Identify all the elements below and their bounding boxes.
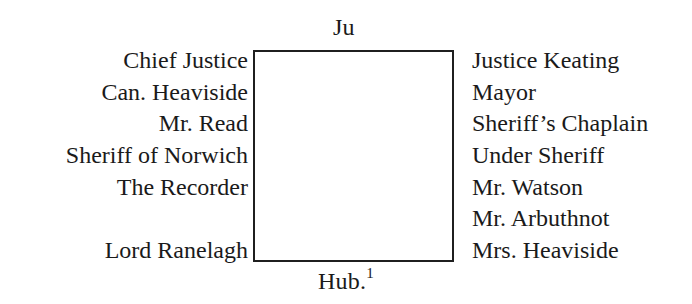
guest-left-7: Lord Ranelagh — [66, 235, 248, 267]
guest-left-5: The Recorder — [66, 172, 248, 204]
table-foot-text: Hub. — [318, 268, 366, 294]
guest-left-3: Mr. Read — [66, 108, 248, 140]
guest-right-4: Under Sheriff — [472, 140, 648, 172]
guest-left-2: Can. Heaviside — [66, 77, 248, 109]
left-side-guests: Chief Justice Can. Heaviside Mr. Read Sh… — [66, 45, 248, 267]
guest-right-5: Mr. Watson — [472, 172, 648, 204]
guest-right-7: Mrs. Heaviside — [472, 235, 648, 267]
guest-left-6-empty — [66, 203, 248, 235]
right-side-guests: Justice Keating Mayor Sheriff’s Chaplain… — [472, 45, 648, 267]
guest-right-2: Mayor — [472, 77, 648, 109]
guest-left-4: Sheriff of Norwich — [66, 140, 248, 172]
table-foot-label: Hub.1 — [318, 265, 374, 297]
footnote-marker[interactable]: 1 — [366, 265, 374, 281]
guest-right-1: Justice Keating — [472, 45, 648, 77]
table-head-label: Ju — [333, 11, 355, 43]
guest-right-3: Sheriff’s Chaplain — [472, 108, 648, 140]
table-rectangle — [253, 50, 454, 262]
guest-left-1: Chief Justice — [66, 45, 248, 77]
guest-right-6: Mr. Arbuthnot — [472, 203, 648, 235]
